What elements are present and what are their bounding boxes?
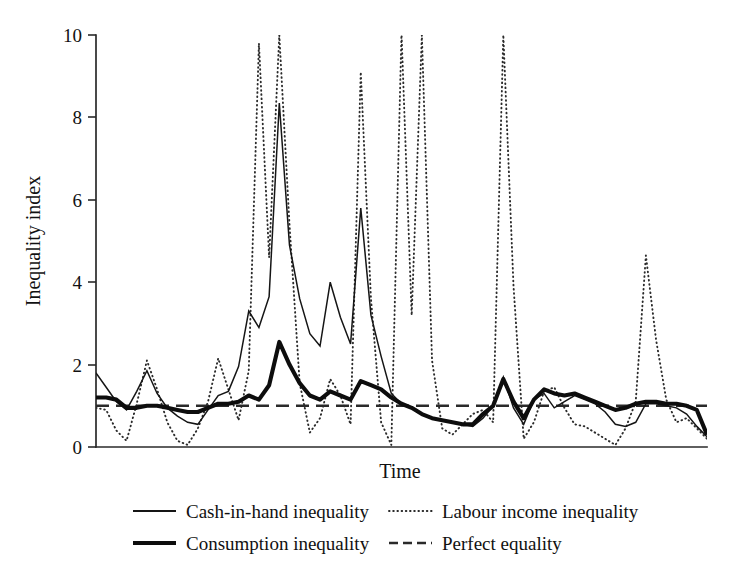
legend-label-perfect-equality: Perfect equality bbox=[442, 533, 562, 554]
legend-label-consumption: Consumption inequality bbox=[186, 533, 370, 554]
legend-label-cash-in-hand: Cash-in-hand inequality bbox=[186, 501, 370, 522]
inequality-index-line-chart: 10 8 6 4 2 0 Inequality index Time Cash-… bbox=[0, 0, 741, 576]
y-tick-label-8: 8 bbox=[73, 107, 83, 128]
y-axis-title: Inequality index bbox=[22, 176, 45, 307]
legend-label-labour-income: Labour income inequality bbox=[442, 501, 639, 522]
y-tick-label-2: 2 bbox=[73, 355, 83, 376]
y-tick-label-10: 10 bbox=[63, 25, 82, 46]
y-tick-label-6: 6 bbox=[73, 190, 83, 211]
x-axis-title: Time bbox=[379, 460, 421, 482]
y-tick-label-4: 4 bbox=[73, 272, 83, 293]
y-tick-label-0: 0 bbox=[73, 437, 83, 458]
chart-figure: 10 8 6 4 2 0 Inequality index Time Cash-… bbox=[0, 0, 741, 576]
